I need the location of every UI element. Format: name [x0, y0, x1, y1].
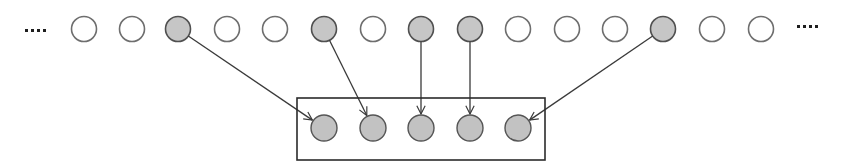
sequence-node — [120, 17, 145, 42]
ellipsis-left — [25, 29, 46, 32]
selected-subset-row — [311, 115, 531, 141]
sequence-node — [215, 17, 240, 42]
subset-node — [457, 115, 483, 141]
subset-node — [311, 115, 337, 141]
sampling-diagram: Sampling a subset of items from a sequen… — [0, 0, 847, 167]
sequence-node-sampled — [409, 17, 434, 42]
selection-arrow — [530, 36, 653, 120]
selection-arrows — [188, 36, 652, 120]
ellipsis-right — [797, 25, 818, 28]
sequence-node-sampled — [458, 17, 483, 42]
sequence-node-sampled — [651, 17, 676, 42]
sequence-node — [603, 17, 628, 42]
sequence-node-sampled — [312, 17, 337, 42]
subset-node — [505, 115, 531, 141]
sequence-node-sampled — [166, 17, 191, 42]
sequence-node — [700, 17, 725, 42]
selection-arrow — [188, 36, 312, 120]
source-sequence-row — [72, 17, 774, 42]
sequence-node — [555, 17, 580, 42]
sequence-node — [749, 17, 774, 42]
subset-node — [408, 115, 434, 141]
sequence-node — [361, 17, 386, 42]
subset-node — [360, 115, 386, 141]
sequence-node — [72, 17, 97, 42]
selection-arrow — [330, 40, 367, 115]
sequence-node — [506, 17, 531, 42]
sequence-node — [263, 17, 288, 42]
